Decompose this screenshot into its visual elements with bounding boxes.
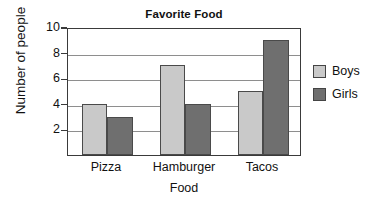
x-tick-label: Tacos [223,160,301,174]
bar-hamburger-girls [185,104,211,155]
legend-label-girls: Girls [332,87,358,101]
y-tick-label: 2 [20,123,60,136]
legend-swatch-girls-icon [313,88,326,101]
bar-pizza-girls [107,117,133,155]
legend-label-boys: Boys [332,64,360,78]
y-tick-label: 6 [20,72,60,85]
y-tick-label: 10 [20,21,60,34]
y-tick-label: 4 [20,98,60,111]
y-tick-label: 8 [20,47,60,60]
bar-pizza-boys [82,104,108,155]
legend-item-boys: Boys [313,61,360,81]
legend: Boys Girls [313,61,360,107]
chart-title: Favorite Food [67,8,301,20]
x-tick-label: Pizza [67,160,145,174]
plot-area [67,28,301,156]
legend-item-girls: Girls [313,84,360,104]
bar-chart: Favorite Food Number of people 246810 Pi… [0,0,382,203]
bar-tacos-boys [238,91,264,155]
x-axis-title: Food [67,181,301,195]
x-tick-label: Hamburger [145,160,223,174]
bar-tacos-girls [263,40,289,155]
legend-swatch-boys-icon [313,65,326,78]
bar-hamburger-boys [160,65,186,155]
